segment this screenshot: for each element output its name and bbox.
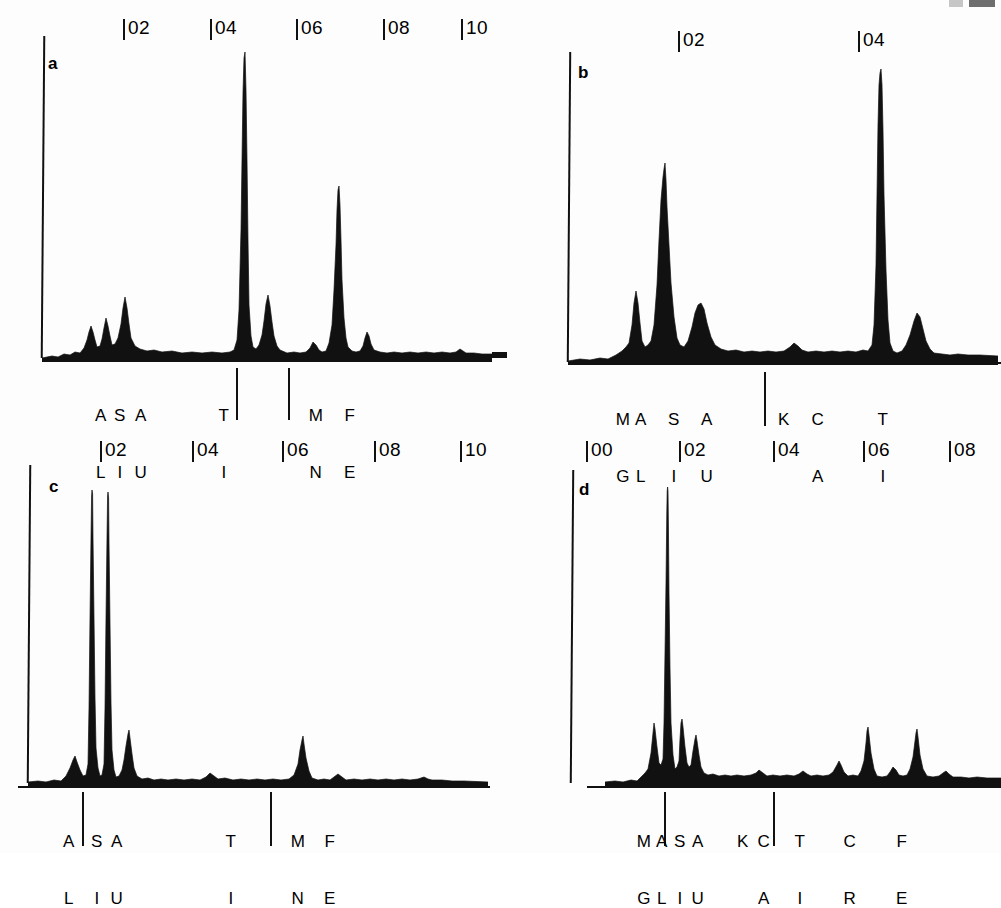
panel-c-label-fe: F E	[319, 794, 341, 908]
tick-bar-icon	[374, 441, 376, 462]
page-corner-artifact	[949, 0, 1001, 7]
panel-c-divider-2	[270, 792, 272, 846]
tick-bar-icon	[858, 31, 860, 52]
panel-a-tick-0: 02	[123, 18, 150, 39]
panel-c-tick-3: 08	[374, 440, 401, 461]
panel-a-tick-4: 10	[461, 18, 488, 39]
panel-d-baseline	[587, 786, 1001, 788]
panel-c-baseline	[18, 786, 490, 788]
panel-c-tick-2: 06	[282, 440, 309, 461]
panel-d-tick-0: 00	[586, 440, 613, 461]
panel-d-spectrum-trace	[605, 473, 1001, 786]
panel-d-energy-scale: 00 02 04 06 08	[545, 440, 1001, 470]
panel-a: 02 04 06 08 10 a A L	[18, 18, 488, 438]
panel-d-label-ca: C A	[753, 794, 775, 908]
tick-bar-icon	[460, 441, 462, 462]
panel-d-label-ti: T I	[789, 794, 811, 908]
tick-bar-icon	[586, 441, 588, 462]
tick-bar-icon	[192, 441, 194, 462]
panel-d-label-fe: F E	[891, 794, 913, 908]
panel-a-tick-3: 08	[383, 18, 410, 39]
panel-d-tick-2: 04	[773, 440, 800, 461]
tick-bar-icon	[296, 19, 298, 40]
panel-c-label-ti: T I	[220, 794, 242, 908]
panel-a-tick-1: 04	[210, 18, 237, 39]
panel-c-element-labels: A L S I A U T I M N F E	[28, 792, 488, 852]
panel-b-baseline	[568, 362, 1001, 364]
panel-b-tick-0: 02	[678, 30, 705, 51]
panel-c-label-mn: M N	[287, 794, 309, 908]
panel-c-energy-scale: 02 04 06 08 10	[8, 440, 488, 470]
tick-bar-icon	[210, 19, 212, 40]
panel-d-y-axis	[570, 470, 574, 783]
tick-bar-icon	[282, 441, 284, 462]
panel-d-letter: d	[579, 480, 589, 500]
panel-d-label-au: A U	[687, 794, 709, 908]
tick-bar-icon	[679, 441, 681, 462]
panel-c-tick-1: 04	[192, 440, 219, 461]
panel-b-spectrum-trace	[568, 55, 998, 365]
tick-bar-icon	[949, 441, 951, 462]
panel-d-tick-4: 08	[949, 440, 976, 461]
tick-bar-icon	[123, 19, 125, 40]
panel-d-label-k: K	[732, 794, 754, 908]
tick-bar-icon	[461, 19, 463, 40]
panel-c-tick-0: 02	[100, 440, 127, 461]
panel-a-element-labels: A L S I A U T I M N F E	[42, 366, 492, 426]
tick-bar-icon	[773, 441, 775, 462]
panel-c: 02 04 06 08 10 c A L	[8, 440, 488, 853]
panel-c-spectrum-trace	[28, 468, 488, 786]
panel-b-tick-1: 04	[858, 30, 885, 51]
inter-panel-dash-mark	[492, 352, 507, 358]
tick-bar-icon	[678, 31, 680, 52]
tick-bar-icon	[383, 19, 385, 40]
panel-c-label-si: S I	[86, 794, 108, 908]
panel-d-tick-1: 02	[679, 440, 706, 461]
panel-a-spectrum-trace	[42, 40, 492, 362]
panel-b-divider-1	[764, 372, 766, 426]
panel-d-tick-3: 06	[863, 440, 890, 461]
panel-a-tick-2: 06	[296, 18, 323, 39]
tick-bar-icon	[100, 441, 102, 462]
panel-c-tick-4: 10	[460, 440, 487, 461]
panel-d: 00 02 04 06 08 d M G	[545, 440, 1001, 853]
panel-c-label-au: A U	[106, 794, 128, 908]
panel-d-label-cr: C R	[839, 794, 861, 908]
tick-bar-icon	[863, 441, 865, 462]
panel-a-divider-2	[288, 368, 290, 420]
panel-c-label-al: A L	[58, 794, 80, 908]
panel-d-element-labels: M G A L S I A U K C A	[587, 792, 1001, 852]
panel-a-baseline	[42, 358, 492, 360]
panel-b: 02 04 b M G A L S I	[545, 30, 1001, 440]
panel-b-element-labels: M G A L S I A U K C A	[568, 370, 1001, 430]
